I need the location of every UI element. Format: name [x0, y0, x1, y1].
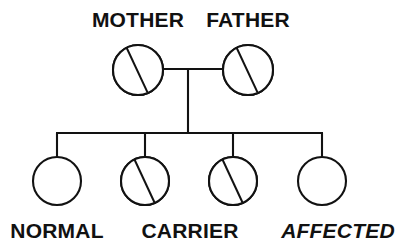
label-normal: NORMAL [10, 219, 103, 242]
label-carrier: CARRIER [141, 219, 238, 242]
symbol-father-carrier [223, 45, 273, 95]
label-affected: AFFECTED [280, 219, 395, 242]
symbol-child-1-normal [33, 157, 81, 205]
label-mother: MOTHER [92, 8, 184, 31]
child-4-circle-outline [298, 157, 346, 205]
child-1-circle-outline [33, 157, 81, 205]
label-father: FATHER [206, 8, 290, 31]
symbol-child-4-affected [298, 157, 346, 205]
symbol-mother-carrier [113, 45, 163, 95]
symbol-child-3-carrier [209, 157, 257, 205]
pedigree-diagram: MOTHER FATHER NORMAL CARRIER AFFECTED [0, 0, 415, 247]
symbol-child-2-carrier [121, 157, 169, 205]
pedigree-canvas: MOTHER FATHER NORMAL CARRIER AFFECTED [0, 0, 415, 247]
